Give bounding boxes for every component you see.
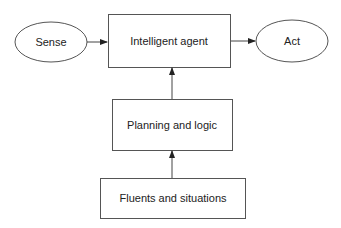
- diagram-canvas: Sense Intelligent agent Act Planning and…: [0, 0, 341, 228]
- planning-label: Planning and logic: [127, 119, 217, 131]
- act-label: Act: [284, 35, 300, 47]
- node-agent: Intelligent agent: [109, 15, 231, 68]
- node-sense: Sense: [15, 22, 87, 62]
- fluents-label: Fluents and situations: [119, 192, 227, 204]
- node-planning: Planning and logic: [113, 100, 233, 151]
- diagram-svg: Sense Intelligent agent Act Planning and…: [0, 0, 341, 228]
- node-act: Act: [256, 20, 328, 62]
- node-fluents: Fluents and situations: [101, 179, 246, 219]
- agent-label: Intelligent agent: [130, 35, 208, 47]
- sense-label: Sense: [35, 36, 66, 48]
